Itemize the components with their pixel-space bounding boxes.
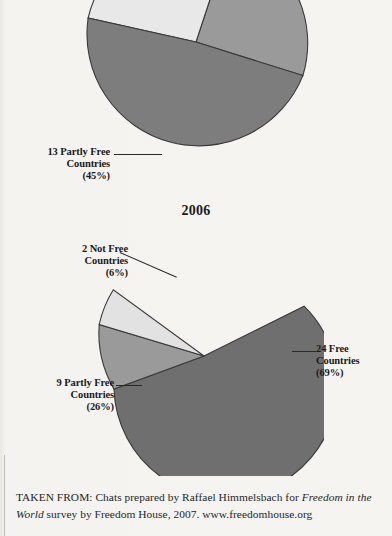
label-free-24-line1: 24 Free [316,343,392,355]
label-partly-free-9: 9 Partly Free Countries (26%) [4,377,114,414]
label-not-free-line2: Countries [6,255,128,267]
page-edge-rule [4,455,5,536]
label-free-24-percent: (69%) [316,367,392,379]
label-free-24: 24 Free Countries (69%) [316,343,392,380]
label-partly-free-9-line1: 9 Partly Free [4,377,114,389]
label-partly-free-9-percent: (26%) [4,401,114,413]
leader-line-partly-free-9 [116,385,142,386]
source-suffix: survey by Freedom House, 2007. www.freed… [44,508,313,520]
label-not-free-percent: (6%) [6,267,128,279]
leader-line-top-partly-free [114,154,162,155]
leader-line-free-24 [292,351,316,352]
label-top-partly-free: 13 Partly Free Countries (45%) [6,146,110,183]
label-not-free-line1: 2 Not Free [6,243,128,255]
label-top-partly-free-percent: (45%) [6,170,110,182]
label-top-partly-free-line1: 13 Partly Free [6,146,110,158]
label-top-partly-free-line2: Countries [6,158,110,170]
scanned-page: 13 Partly Free Countries (45%) 2006 2 No… [0,0,392,536]
label-partly-free-9-line2: Countries [4,389,114,401]
label-free-24-line2: Countries [316,355,392,367]
label-not-free: 2 Not Free Countries (6%) [6,243,128,280]
source-attribution: TAKEN FROM: Chats prepared by Raffael Hi… [16,489,380,522]
pie-chart-top [76,0,316,162]
chart-year-title-2006: 2006 [0,203,392,219]
source-prefix: TAKEN FROM: Chats prepared by Raffael Hi… [16,491,302,503]
